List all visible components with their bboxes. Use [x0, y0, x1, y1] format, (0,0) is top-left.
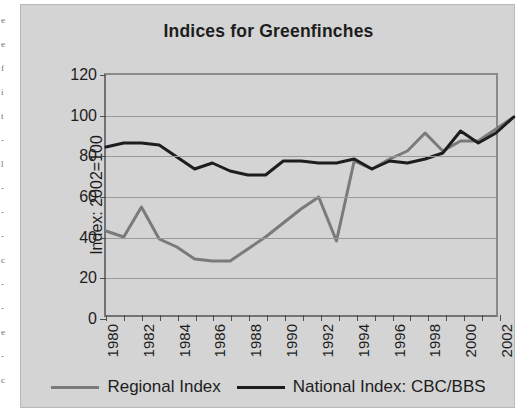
x-axis-tick	[124, 315, 125, 321]
margin-glyph: -	[1, 208, 4, 217]
x-axis-tick	[375, 315, 376, 321]
margin-glyph: t	[1, 112, 4, 121]
x-axis-tick	[303, 315, 304, 321]
y-axis-tick	[100, 238, 106, 239]
margin-glyph: e	[1, 16, 5, 25]
gridline	[106, 116, 496, 117]
x-axis-tick-label: 1984	[175, 324, 192, 357]
x-axis-tick	[482, 315, 483, 321]
margin-glyph: -	[1, 232, 4, 241]
y-axis-tick	[100, 156, 106, 157]
margin-glyph: e	[1, 40, 5, 49]
y-axis-tick	[100, 75, 106, 76]
x-axis-tick	[142, 315, 143, 321]
x-axis-tick	[321, 315, 322, 321]
x-axis-tick	[393, 315, 394, 321]
gridline	[106, 156, 496, 157]
chart-figure: Indices for Greenfinches Index: 2002=100…	[20, 4, 515, 408]
x-axis-tick	[160, 315, 161, 321]
x-axis-tick-label: 1992	[318, 324, 335, 357]
margin-glyph: e	[1, 328, 5, 337]
gridline	[106, 197, 496, 198]
x-axis-tick	[500, 315, 501, 321]
y-axis-tick-label: 40	[79, 229, 97, 247]
page-left-margin: eefit-l---c--e-c	[0, 0, 20, 416]
margin-glyph: i	[1, 88, 4, 97]
x-axis-tick	[464, 315, 465, 321]
y-axis-tick-label: 20	[79, 269, 97, 287]
legend-item[interactable]: National Index: CBC/BBS	[237, 377, 486, 397]
plot-area: 0204060801001201980198219841986198819901…	[104, 73, 498, 317]
y-axis-tick-label: 120	[70, 66, 97, 84]
margin-glyph: -	[1, 136, 4, 145]
margin-glyph: -	[1, 352, 4, 361]
y-axis-tick	[100, 197, 106, 198]
x-axis-tick-label: 1988	[247, 324, 264, 357]
x-axis-tick-label: 2000	[462, 324, 479, 357]
margin-glyph: c	[1, 256, 5, 265]
x-axis-tick	[178, 315, 179, 321]
x-axis-tick	[249, 315, 250, 321]
legend-label: Regional Index	[107, 377, 220, 397]
margin-glyph: l	[1, 160, 4, 169]
x-axis-tick-label: 1982	[139, 324, 156, 357]
legend-item[interactable]: Regional Index	[51, 377, 220, 397]
x-axis-tick-label: 1986	[211, 324, 228, 357]
margin-glyph: -	[1, 280, 4, 289]
chart-title: Indices for Greenfinches	[21, 21, 516, 42]
gridline	[106, 278, 496, 279]
margin-glyph: c	[1, 376, 5, 385]
chart-screenshot: eefit-l---c--e-c Indices for Greenfinche…	[0, 0, 527, 416]
x-axis-tick	[285, 315, 286, 321]
x-axis-tick	[428, 315, 429, 321]
x-axis-tick	[357, 315, 358, 321]
y-axis-tick-label: 80	[79, 147, 97, 165]
x-axis-tick-label: 2002	[498, 324, 515, 357]
x-axis-tick-label: 1998	[426, 324, 443, 357]
x-axis-tick-label: 1994	[354, 324, 371, 357]
y-axis-tick-label: 0	[88, 310, 97, 328]
y-axis-tick-label: 100	[70, 107, 97, 125]
x-axis-tick	[106, 315, 107, 321]
x-axis-tick	[410, 315, 411, 321]
y-axis-tick-label: 60	[79, 188, 97, 206]
x-axis-tick-label: 1980	[104, 324, 121, 357]
x-axis-tick	[339, 315, 340, 321]
x-axis-tick	[267, 315, 268, 321]
x-axis-tick	[446, 315, 447, 321]
x-axis-tick-label: 1990	[283, 324, 300, 357]
margin-glyph: f	[1, 64, 4, 73]
legend-label: National Index: CBC/BBS	[293, 377, 486, 397]
legend-line-swatch	[51, 386, 99, 389]
x-axis-tick	[196, 315, 197, 321]
legend-line-swatch	[237, 386, 285, 389]
x-axis-tick	[213, 315, 214, 321]
y-axis-tick	[100, 116, 106, 117]
x-axis-tick-label: 1996	[390, 324, 407, 357]
chart-legend: Regional IndexNational Index: CBC/BBS	[21, 377, 516, 397]
y-axis-tick	[100, 278, 106, 279]
x-axis-tick	[231, 315, 232, 321]
margin-glyph: -	[1, 304, 4, 313]
gridline	[106, 238, 496, 239]
margin-glyph: -	[1, 184, 4, 193]
